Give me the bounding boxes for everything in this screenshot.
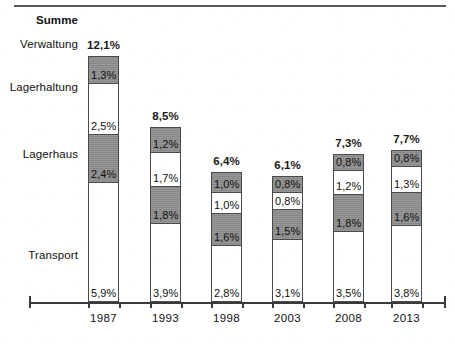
x-axis-tick (303, 302, 305, 308)
x-axis-tick (242, 302, 244, 308)
bar-segment-value-label: 2,8% (214, 287, 239, 299)
bar-segment-value-label: 3,5% (336, 287, 361, 299)
bar-total-label: 6,4% (213, 155, 240, 167)
x-axis-tick (119, 302, 121, 308)
x-axis-tick (364, 302, 366, 308)
bar-segment-value-label: 0,8% (394, 152, 419, 164)
bar-segment-value-label: 1,3% (394, 178, 419, 190)
x-axis-tick (444, 302, 446, 308)
bar-total-label: 7,7% (393, 133, 420, 145)
bar-segment-lagerhaus[interactable]: 1,8% (333, 194, 364, 231)
bar-total-label: 12,1% (87, 39, 120, 51)
stacked-bar[interactable]: 7,3%0,8%1,2%1,8%3,5% (333, 154, 364, 302)
stacked-bar[interactable]: 7,7%0,8%1,3%1,6%3,8% (391, 150, 422, 302)
bar-segment-value-label: 1,0% (214, 199, 239, 211)
bar-segment-lagerhaltung[interactable]: 1,3% (391, 166, 422, 192)
bar-segment-value-label: 1,6% (394, 211, 419, 223)
bar-segment-value-label: 1,7% (153, 172, 178, 184)
bar-total-label: 6,1% (274, 159, 301, 171)
x-axis-tick (391, 302, 393, 308)
x-axis-tick (150, 302, 152, 308)
bar-segment-lagerhaltung[interactable]: 1,0% (211, 192, 242, 212)
bar-segment-lagerhaltung[interactable]: 1,2% (333, 170, 364, 194)
x-axis-year-label: 1998 (204, 312, 250, 324)
stacked-bar[interactable]: 6,1%0,8%0,8%1,5%3,1% (272, 176, 303, 302)
bar-segment-lagerhaltung[interactable]: 1,7% (150, 152, 181, 187)
bar-segment-value-label: 1,0% (214, 178, 239, 190)
bar-segment-value-label: 2,5% (91, 120, 116, 132)
bar-segment-value-label: 3,1% (275, 287, 300, 299)
bar-total-label: 7,3% (335, 137, 362, 149)
stacked-bar[interactable]: 8,5%1,2%1,7%1,8%3,9% (150, 127, 181, 302)
bar-segment-value-label: 3,9% (153, 287, 178, 299)
stacked-bar[interactable]: 6,4%1,0%1,0%1,6%2,8% (211, 172, 242, 302)
x-axis-tick (272, 302, 274, 308)
x-axis-tick (211, 302, 213, 308)
bar-segment-value-label: 1,2% (336, 180, 361, 192)
stacked-bar[interactable]: 12,1%1,3%2,5%2,4%5,9% (88, 56, 119, 302)
bar-segment-value-label: 2,4% (91, 168, 116, 180)
bar-segment-value-label: 0,8% (275, 178, 300, 190)
x-axis-tick (29, 302, 31, 308)
bar-segment-lagerhaus[interactable]: 1,8% (150, 186, 181, 223)
x-axis-tick (333, 302, 335, 308)
bar-segment-value-label: 1,5% (275, 225, 300, 237)
bar-segment-lagerhaltung[interactable]: 0,8% (272, 192, 303, 208)
x-axis-tick (181, 302, 183, 308)
bar-segment-transport[interactable]: 2,8% (211, 245, 242, 302)
bar-segment-lagerhaltung[interactable]: 2,5% (88, 83, 119, 134)
bar-segment-transport[interactable]: 3,8% (391, 225, 422, 302)
bar-segment-value-label: 1,8% (336, 217, 361, 229)
x-axis-line (29, 302, 446, 304)
bar-segment-value-label: 5,9% (91, 287, 116, 299)
bar-segment-verwaltung[interactable]: 1,2% (150, 127, 181, 151)
bar-segment-value-label: 0,8% (275, 195, 300, 207)
x-axis-year-label: 2008 (326, 312, 372, 324)
x-axis-year-label: 2013 (384, 312, 430, 324)
bar-segment-value-label: 3,8% (394, 287, 419, 299)
bar-segment-value-label: 1,3% (91, 69, 116, 81)
x-axis-tick (422, 302, 424, 308)
bar-segment-value-label: 1,6% (214, 231, 239, 243)
x-axis-year-label: 2003 (265, 312, 311, 324)
x-axis-year-label: 1987 (81, 312, 127, 324)
bar-segment-lagerhaus[interactable]: 1,5% (272, 209, 303, 239)
x-axis-year-label: 1993 (143, 312, 189, 324)
bar-segment-value-label: 0,8% (336, 156, 361, 168)
bar-segment-transport[interactable]: 3,1% (272, 239, 303, 302)
bar-segment-value-label: 1,2% (153, 138, 178, 150)
bar-segment-transport[interactable]: 3,9% (150, 223, 181, 302)
plot-area: 12,1%1,3%2,5%2,4%5,9%8,5%1,2%1,7%1,8%3,9… (0, 0, 455, 349)
bar-segment-lagerhaus[interactable]: 1,6% (211, 213, 242, 245)
bar-segment-lagerhaus[interactable]: 2,4% (88, 134, 119, 183)
bar-segment-verwaltung[interactable]: 1,3% (88, 56, 119, 82)
bar-segment-value-label: 1,8% (153, 209, 178, 221)
x-axis-tick (88, 302, 90, 308)
bar-total-label: 8,5% (152, 110, 179, 122)
bar-segment-transport[interactable]: 3,5% (333, 231, 364, 302)
bar-segment-verwaltung[interactable]: 0,8% (272, 176, 303, 192)
bar-segment-verwaltung[interactable]: 0,8% (391, 150, 422, 166)
bar-segment-lagerhaus[interactable]: 1,6% (391, 192, 422, 224)
stacked-bar-chart: Summe Verwaltung Lagerhaltung Lagerhaus … (0, 0, 455, 349)
bar-segment-transport[interactable]: 5,9% (88, 182, 119, 302)
bar-segment-verwaltung[interactable]: 0,8% (333, 154, 364, 170)
bar-segment-verwaltung[interactable]: 1,0% (211, 172, 242, 192)
